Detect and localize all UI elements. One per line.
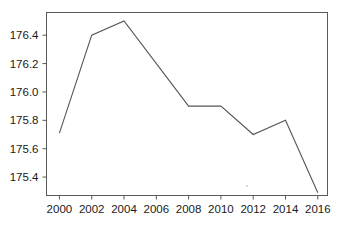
line-chart: 175.4175.6175.8176.0176.2176.4 200020022… [0,0,346,232]
x-axis-tick-labels: 200020022004200620082010201220142016 [47,203,331,215]
x-tick-label: 2016 [305,203,331,215]
y-tick-label: 176.0 [10,86,39,98]
x-tick-label: 2004 [111,203,137,215]
scan-speck [246,185,248,187]
x-tick-label: 2010 [208,203,234,215]
y-axis-tick-labels: 175.4175.6175.8176.0176.2176.4 [10,29,39,183]
y-tick-label: 176.2 [10,58,39,70]
y-tick-label: 175.6 [10,143,39,155]
x-tick-label: 2002 [79,203,105,215]
chart-canvas: 175.4175.6175.8176.0176.2176.4 200020022… [0,0,346,232]
y-tick-label: 175.8 [10,114,39,126]
x-tick-label: 2014 [273,203,299,215]
x-tick-label: 2012 [240,203,266,215]
x-tick-label: 2008 [176,203,202,215]
data-series-line [59,21,317,193]
y-tick-label: 176.4 [10,29,39,41]
y-tick-label: 175.4 [10,171,39,183]
x-axis-tick-marks [59,196,317,200]
x-tick-label: 2006 [144,203,170,215]
x-tick-label: 2000 [47,203,73,215]
y-axis-tick-marks [43,35,47,177]
